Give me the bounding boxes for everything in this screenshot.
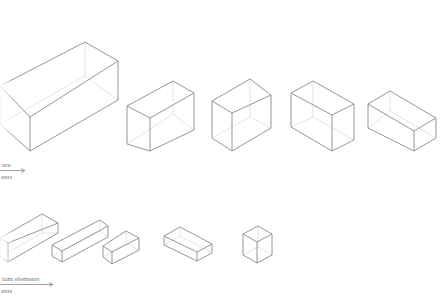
box-2-icon <box>127 81 194 151</box>
row-2-arrow <box>0 283 53 287</box>
bar-2-icon <box>52 220 108 262</box>
left-fade <box>0 230 14 270</box>
row-1-label-line2: ents <box>1 173 12 181</box>
row-2-label-line2: ents <box>1 287 12 295</box>
row-1-label-line1: ure <box>2 161 11 169</box>
left-fade <box>0 80 14 160</box>
row-1-arrow <box>0 169 25 173</box>
cube-icon <box>243 226 272 263</box>
large-box-icon <box>0 42 118 151</box>
box-3-icon <box>212 79 271 151</box>
slab-icon <box>164 227 212 261</box>
box-5-icon <box>368 91 436 151</box>
row-2-label-line1: ium elements <box>2 275 40 283</box>
isometric-diagram <box>0 0 441 304</box>
box-group <box>0 42 436 264</box>
box-4-icon <box>291 81 354 151</box>
